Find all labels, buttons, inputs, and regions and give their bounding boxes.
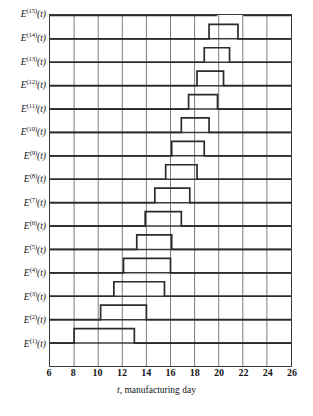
trace-1 bbox=[50, 329, 291, 344]
y-label-argument: (t) bbox=[37, 339, 46, 349]
y-axis-label-5: E(5)(t) bbox=[24, 244, 46, 256]
y-label-argument: (t) bbox=[37, 245, 46, 255]
caption-fragment bbox=[0, 406, 313, 415]
trace-11 bbox=[50, 95, 291, 110]
x-axis-tick-8: 8 bbox=[71, 368, 76, 378]
x-axis-tick-6: 6 bbox=[47, 368, 52, 378]
series-layer bbox=[50, 15, 291, 366]
trace-7 bbox=[50, 188, 291, 203]
y-label-superscript: (10) bbox=[26, 125, 37, 132]
y-axis-label-7: E(7)(t) bbox=[24, 197, 46, 209]
y-label-argument: (t) bbox=[37, 175, 46, 185]
trace-5 bbox=[50, 235, 291, 250]
y-label-argument: (t) bbox=[37, 316, 46, 326]
x-axis-tick-26: 26 bbox=[287, 368, 297, 378]
trace-12 bbox=[50, 71, 291, 86]
y-label-superscript: (15) bbox=[26, 8, 37, 15]
x-axis-tick-20: 20 bbox=[214, 368, 224, 378]
y-label-argument: (t) bbox=[37, 33, 46, 43]
y-label-argument: (t) bbox=[37, 151, 46, 161]
x-axis-tick-labels: 68101214161820222426 bbox=[0, 367, 313, 383]
y-label-argument: (t) bbox=[37, 198, 46, 208]
x-axis-title: t, manufacturing day bbox=[0, 385, 313, 395]
x-axis-tick-18: 18 bbox=[190, 368, 200, 378]
y-label-argument: (t) bbox=[37, 57, 46, 67]
y-axis-label-8: E(8)(t) bbox=[24, 173, 46, 185]
y-axis-label-9: E(9)(t) bbox=[24, 150, 46, 162]
y-axis-label-6: E(6)(t) bbox=[24, 220, 46, 232]
y-axis-label-1: E(1)(t) bbox=[24, 338, 46, 350]
y-axis-label-column: E(1)(t)E(2)(t)E(3)(t)E(4)(t)E(5)(t)E(6)(… bbox=[0, 0, 49, 416]
y-label-argument: (t) bbox=[37, 292, 46, 302]
y-axis-label-11: E(11)(t) bbox=[21, 103, 46, 115]
y-label-superscript: (14) bbox=[26, 31, 37, 38]
x-axis-tick-22: 22 bbox=[238, 368, 248, 378]
trace-6 bbox=[50, 212, 291, 227]
x-axis-tick-16: 16 bbox=[166, 368, 176, 378]
y-label-superscript: (12) bbox=[26, 78, 37, 85]
y-axis-label-12: E(12)(t) bbox=[21, 79, 46, 91]
y-axis-label-2: E(2)(t) bbox=[24, 315, 46, 327]
trace-2 bbox=[50, 305, 291, 320]
trace-14 bbox=[50, 24, 291, 39]
x-axis-title-rest: , manufacturing day bbox=[120, 385, 196, 395]
y-label-argument: (t) bbox=[37, 222, 46, 232]
y-axis-label-4: E(4)(t) bbox=[24, 268, 46, 280]
y-label-superscript: (11) bbox=[27, 102, 37, 109]
y-label-argument: (t) bbox=[37, 269, 46, 279]
trace-8 bbox=[50, 165, 291, 180]
trace-10 bbox=[50, 118, 291, 133]
y-label-argument: (t) bbox=[37, 80, 46, 90]
y-axis-label-15: E(15)(t) bbox=[21, 9, 46, 21]
y-axis-label-13: E(13)(t) bbox=[21, 56, 46, 68]
x-axis-tick-14: 14 bbox=[141, 368, 151, 378]
x-axis-tick-10: 10 bbox=[93, 368, 103, 378]
y-label-argument: (t) bbox=[37, 104, 46, 114]
y-axis-label-3: E(3)(t) bbox=[24, 291, 46, 303]
plot-area bbox=[49, 14, 292, 367]
y-axis-label-10: E(10)(t) bbox=[21, 126, 46, 138]
y-axis-label-14: E(14)(t) bbox=[21, 32, 46, 44]
trace-9 bbox=[50, 141, 291, 156]
y-label-argument: (t) bbox=[37, 127, 46, 137]
trace-3 bbox=[50, 282, 291, 297]
trace-13 bbox=[50, 48, 291, 63]
y-label-superscript: (13) bbox=[26, 55, 37, 62]
y-label-argument: (t) bbox=[37, 10, 46, 20]
x-axis-tick-24: 24 bbox=[263, 368, 273, 378]
figure-step-chart: E(1)(t)E(2)(t)E(3)(t)E(4)(t)E(5)(t)E(6)(… bbox=[0, 0, 313, 416]
x-axis-tick-12: 12 bbox=[117, 368, 127, 378]
trace-4 bbox=[50, 258, 291, 273]
